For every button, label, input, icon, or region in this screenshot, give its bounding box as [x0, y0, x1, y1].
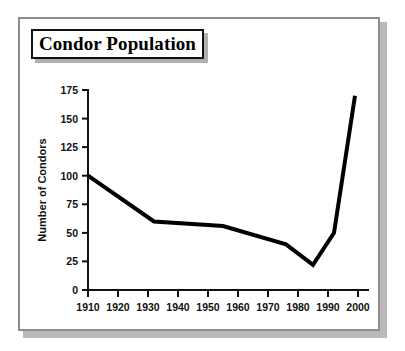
x-tick-label: 1910 — [76, 301, 100, 313]
y-tick-label: 125 — [60, 141, 78, 153]
x-tick-label: 1920 — [106, 301, 130, 313]
x-tick-label: 1960 — [226, 301, 250, 313]
x-tick-label: 1980 — [286, 301, 310, 313]
x-tick-label: 2000 — [346, 301, 370, 313]
y-tick-label: 100 — [60, 170, 78, 182]
line-chart: 0 25 50 75 100 125 150 175 Number of Con… — [0, 0, 405, 351]
x-axis-tick-labels: 1910 1920 1930 1940 1950 1960 1970 1980 … — [76, 301, 370, 313]
x-tick-label: 1940 — [166, 301, 190, 313]
y-tick-label: 25 — [66, 255, 78, 267]
chart-page: Condor Population 0 25 50 75 100 125 150… — [0, 0, 405, 351]
x-tick-label: 1990 — [316, 301, 340, 313]
x-tick-label: 1970 — [256, 301, 280, 313]
data-series-line — [88, 96, 355, 265]
x-tick-label: 1950 — [196, 301, 220, 313]
x-tick-label: 1930 — [136, 301, 160, 313]
y-axis-title: Number of Condors — [36, 138, 48, 241]
y-tick-label: 150 — [60, 113, 78, 125]
x-axis-ticks — [88, 290, 358, 297]
y-tick-label: 175 — [60, 84, 78, 96]
y-tick-label: 75 — [66, 198, 78, 210]
y-tick-label: 0 — [72, 284, 78, 296]
y-axis-tick-labels: 0 25 50 75 100 125 150 175 — [60, 84, 78, 296]
y-tick-label: 50 — [66, 227, 78, 239]
